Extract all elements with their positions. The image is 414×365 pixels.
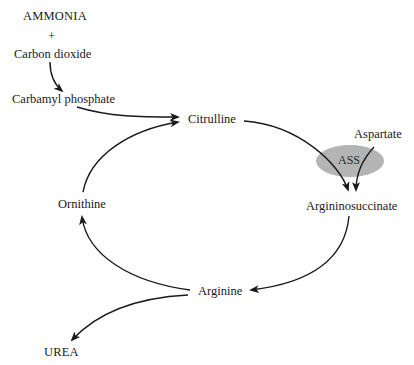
node-carbamyl-phosphate: Carbamyl phosphate [12,92,115,106]
node-urea: UREA [44,345,79,359]
arrow-carbamyl-to-citrulline [77,107,178,117]
node-argininosuccinate: Argininosuccinate [306,199,397,213]
arrow-citrulline-to-argininosuccinate [244,121,348,190]
plus-sign: + [48,29,55,43]
arrow-arginine-to-ornithine [82,217,190,290]
urea-cycle-diagram: AMMONIA + Carbon dioxide Carbamyl phosph… [0,0,414,365]
enzyme-ass-label: ASS [338,153,360,168]
arrow-arginine-to-urea [72,295,188,340]
arrow-argininosuccinate-to-arginine [251,216,349,290]
node-ammonia: AMMONIA [23,9,87,23]
node-ornithine: Ornithine [58,197,106,211]
node-aspartate: Aspartate [354,127,402,141]
arrow-co2-to-carbamyl [50,62,62,91]
node-arginine: Arginine [198,284,242,298]
arrow-ornithine-to-citrulline [83,122,178,192]
node-carbon-dioxide: Carbon dioxide [14,47,91,61]
node-citrulline: Citrulline [188,112,236,126]
